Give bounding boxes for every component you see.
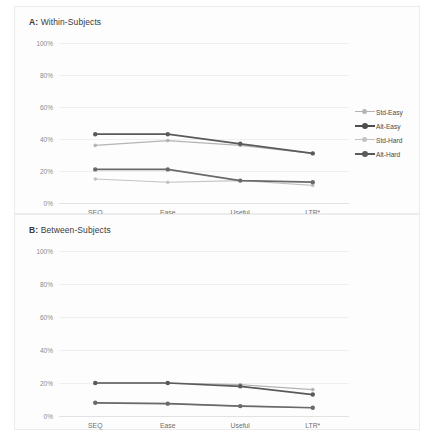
data-point [93,132,97,136]
data-point [238,384,242,388]
legend-item-std-easy[interactable]: Std-Easy [355,105,434,119]
plot-area-b: 0%20%40%60%80%100%SEQEaseUsefulLTR* [59,251,349,416]
series-layer [59,43,349,203]
y-tick-label-20: 20% [40,168,53,175]
legend-item-std-hard[interactable]: Std-Hard [355,133,434,147]
y-tick-label-100: 100% [36,248,53,255]
y-tick-label-40: 40% [40,136,53,143]
x-tick-label-ltr: LTR* [305,422,320,429]
data-point [238,142,242,146]
series-line [95,141,313,154]
y-tick-label-60: 60% [40,104,53,111]
panel-a-title-prefix: A: [29,17,38,27]
panel-a-title-text: Within-Subjects [41,17,102,27]
y-tick-label-0: 0% [44,413,53,420]
data-point [166,401,170,405]
series-alt-hard [93,401,315,410]
series-line [95,403,313,408]
legend-label: Alt-Hard [376,151,400,158]
legend-marker-icon [355,107,375,117]
chart-page: A: Within-Subjects 0%20%40%60%80%100%SEQ… [0,0,434,436]
data-point [166,381,170,385]
legend-a: Std-EasyAlt-EasyStd-HardAlt-Hard [355,105,434,161]
data-point [238,404,242,408]
legend-label: Alt-Easy [376,123,401,130]
x-axis-line [59,416,349,417]
panel-b-title-prefix: B: [29,225,38,235]
y-tick-label-80: 80% [40,72,53,79]
x-tick-label-seq: SEQ [88,422,102,429]
legend-marker-icon [355,121,375,131]
panel-b-title: B: Between-Subjects [29,225,111,235]
data-point [93,381,97,385]
panel-within-subjects: A: Within-Subjects 0%20%40%60%80%100%SEQ… [14,6,420,214]
data-point [311,388,315,392]
data-point [166,132,170,136]
legend-item-alt-hard[interactable]: Alt-Hard [355,147,434,161]
series-alt-easy [93,381,315,397]
data-point [311,406,315,410]
x-axis-line [59,203,349,204]
data-point [166,139,170,143]
data-point [311,392,315,396]
data-point [93,167,97,171]
data-point [93,401,97,405]
data-point [166,167,170,171]
series-line [95,383,313,395]
y-tick-label-60: 60% [40,314,53,321]
y-tick-label-20: 20% [40,380,53,387]
x-tick-label-ease: Ease [160,422,176,429]
data-point [166,180,170,184]
plot-area-a: 0%20%40%60%80%100%SEQEaseUsefulLTR* [59,43,349,203]
series-layer [59,251,349,416]
legend-label: Std-Hard [376,137,402,144]
series-line [95,134,313,153]
series-std-easy [93,139,314,155]
legend-marker-icon [355,135,375,145]
y-tick-label-0: 0% [44,200,53,207]
data-point [311,151,315,155]
legend-label: Std-Easy [376,109,403,116]
y-tick-label-80: 80% [40,281,53,288]
data-point [238,178,242,182]
data-point [93,177,97,181]
x-tick-label-useful: Useful [231,422,250,429]
panel-between-subjects: B: Between-Subjects 0%20%40%60%80%100%SE… [14,214,420,430]
data-point [311,180,315,184]
y-tick-label-100: 100% [36,40,53,47]
legend-item-alt-easy[interactable]: Alt-Easy [355,119,434,133]
legend-marker-icon [355,149,375,159]
panel-a-title: A: Within-Subjects [29,17,101,27]
y-tick-label-40: 40% [40,347,53,354]
panel-b-title-text: Between-Subjects [41,225,111,235]
data-point [93,144,97,148]
